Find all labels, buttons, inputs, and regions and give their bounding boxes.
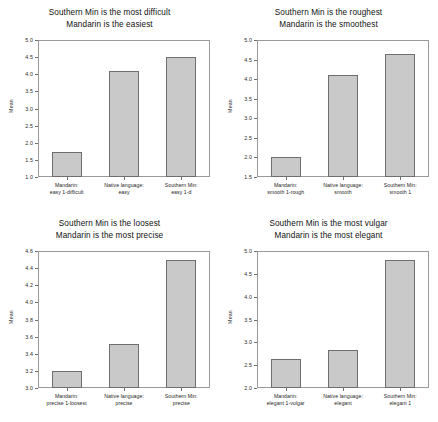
chart-panel-top-left: Southern Min is the most difficultMandar… <box>0 0 219 211</box>
x-axis-category-line: Southern Min: <box>384 182 417 189</box>
y-axis-tick-label: 2.0 <box>244 154 252 160</box>
y-axis-tick-label: 3.4 <box>25 351 33 357</box>
bar <box>166 260 196 388</box>
x-axis-category-label: Southern Min:easy 1-d <box>165 182 198 196</box>
y-axis-tick-label: 2.0 <box>25 140 33 146</box>
x-axis-category-line: Southern Min: <box>165 393 198 400</box>
y-axis-tick-label: 3.5 <box>244 96 252 102</box>
bar-series <box>38 251 210 388</box>
chart-title-line: Southern Min is the loosest <box>0 218 219 230</box>
chart-title-line: Mandarin is the easiest <box>0 19 219 31</box>
x-axis-tick <box>67 177 68 180</box>
x-axis-tick <box>343 177 344 180</box>
y-axis-tick-label: 3.0 <box>25 385 33 391</box>
y-axis-tick-label: 5.0 <box>244 248 252 254</box>
y-axis-tick-label: 2.5 <box>25 123 33 129</box>
chart-title-line: Mandarin is the smoothest <box>219 19 438 31</box>
y-axis-tick <box>254 388 257 389</box>
chart-title-line: Southern Min is the roughest <box>219 7 438 19</box>
x-axis-category-line: elegant 1 <box>384 400 417 407</box>
x-axis-category-label: Southern Min:elegant 1 <box>384 393 417 407</box>
x-axis-tick <box>343 388 344 391</box>
y-axis-tick <box>35 388 38 389</box>
chart-panel-top-right: Southern Min is the roughestMandarin is … <box>219 0 438 211</box>
y-axis-tick-label: 5.0 <box>244 37 252 43</box>
chart-title: Southern Min is the most difficultMandar… <box>0 7 219 30</box>
y-axis-tick <box>35 177 38 178</box>
x-axis-category-line: easy <box>104 189 144 196</box>
y-axis-tick-label: 3.5 <box>25 88 33 94</box>
plot-area: 3.03.23.43.63.84.04.24.44.6Mandarin:prec… <box>38 251 210 388</box>
x-axis-category-label: Native language:easy <box>104 182 144 196</box>
y-axis-tick-label: 2.5 <box>244 362 252 368</box>
x-axis-category-line: precise <box>104 400 144 407</box>
bar-series <box>38 40 210 177</box>
x-axis-category-label: Mandarin:smooth 1-rough <box>267 182 304 196</box>
chart-panel-bottom-right: Southern Min is the most vulgarMandarin … <box>219 211 438 422</box>
x-axis-tick <box>181 177 182 180</box>
y-axis-label: Mean <box>227 99 233 113</box>
plot-area: 1.01.52.02.53.03.54.04.55.0Mandarin:easy… <box>38 40 210 177</box>
bar <box>271 359 301 388</box>
x-axis-category-line: Native language: <box>323 393 363 400</box>
x-axis-category-line: Native language: <box>323 182 363 189</box>
y-axis-tick-label: 3.0 <box>244 115 252 121</box>
y-axis-tick-label: 4.0 <box>244 294 252 300</box>
x-axis-category-line: Native language: <box>104 393 144 400</box>
y-axis-tick-label: 4.6 <box>25 248 33 254</box>
bar <box>52 152 82 177</box>
x-axis-category-line: Southern Min: <box>165 182 198 189</box>
x-axis-category-line: Mandarin: <box>267 182 304 189</box>
x-axis-category-line: Mandarin: <box>267 393 305 400</box>
bar <box>328 75 358 177</box>
y-axis-tick-label: 4.2 <box>25 282 33 288</box>
y-axis-tick-label: 4.4 <box>25 265 33 271</box>
y-axis-tick-label: 2.5 <box>244 135 252 141</box>
bar <box>109 71 139 177</box>
x-axis-category-label: Native language:precise <box>104 393 144 407</box>
y-axis-tick-label: 3.6 <box>25 334 33 340</box>
x-axis-category-label: Mandarin:easy 1-difficult <box>50 182 84 196</box>
plot-area: 1.52.02.53.03.54.04.55.0Mandarin:smooth … <box>257 40 429 177</box>
chart-title: Southern Min is the roughestMandarin is … <box>219 7 438 30</box>
plot-area: 2.02.53.03.54.04.55.0Mandarin:elegant 1-… <box>257 251 429 388</box>
y-axis-tick-label: 2.0 <box>244 385 252 391</box>
x-axis-category-line: Mandarin: <box>50 182 84 189</box>
y-axis-tick-label: 3.0 <box>244 339 252 345</box>
bar <box>385 260 415 388</box>
bar <box>328 350 358 388</box>
x-axis-category-line: precise <box>165 400 198 407</box>
x-axis-tick <box>400 177 401 180</box>
x-axis-category-label: Mandarin:precise 1-loosest <box>47 393 87 407</box>
chart-title-line: Southern Min is the most vulgar <box>219 218 438 230</box>
x-axis-category-line: Mandarin: <box>47 393 87 400</box>
x-axis-category-line: smooth 1 <box>384 189 417 196</box>
bar <box>166 57 196 177</box>
y-axis-tick-label: 3.8 <box>25 317 33 323</box>
x-axis-category-label: Southern Min:precise <box>165 393 198 407</box>
chart-title-line: Southern Min is the most difficult <box>0 7 219 19</box>
bar-series <box>257 40 429 177</box>
y-axis-tick-label: 4.5 <box>25 54 33 60</box>
chart-title-line: Mandarin is the most precise <box>0 230 219 242</box>
x-axis-category-line: smooth 1-rough <box>267 189 304 196</box>
y-axis-tick <box>254 177 257 178</box>
x-axis-tick <box>181 388 182 391</box>
x-axis-category-line: easy 1-d <box>165 189 198 196</box>
y-axis-tick-label: 5.0 <box>25 37 33 43</box>
y-axis-tick-label: 1.5 <box>25 157 33 163</box>
x-axis-category-label: Mandarin:elegant 1-vulgar <box>267 393 305 407</box>
x-axis-category-line: easy 1-difficult <box>50 189 84 196</box>
x-axis-category-line: elegant <box>323 400 363 407</box>
bar <box>52 371 82 388</box>
y-axis-tick-label: 4.0 <box>25 299 33 305</box>
y-axis-tick-label: 4.5 <box>244 271 252 277</box>
x-axis-tick <box>286 388 287 391</box>
x-axis-category-line: Southern Min: <box>384 393 417 400</box>
y-axis-label: Mean <box>8 99 14 113</box>
y-axis-tick-label: 1.5 <box>244 174 252 180</box>
x-axis-category-line: elegant 1-vulgar <box>267 400 305 407</box>
y-axis-tick-label: 3.0 <box>25 106 33 112</box>
y-axis-tick-label: 3.5 <box>244 317 252 323</box>
x-axis-tick <box>124 177 125 180</box>
